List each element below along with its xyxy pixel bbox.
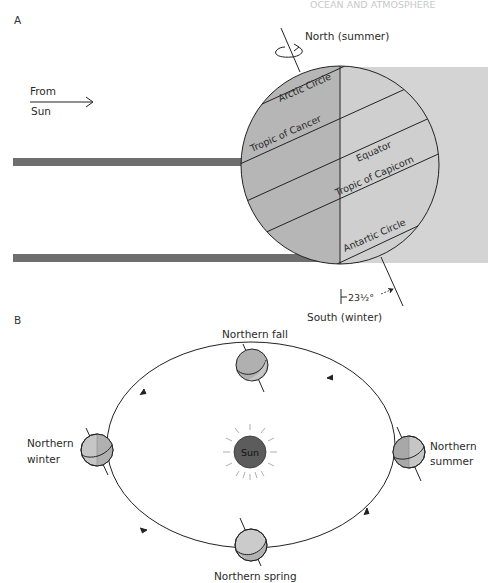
northern-summer-label-line1: Northern [430,440,477,452]
axis-south [381,257,403,306]
panel-a-label: A [14,14,22,26]
northern-winter-label-line2: winter [27,453,61,465]
panel-b-label: B [14,314,21,326]
earth-fall [236,344,268,392]
northern-winter-label-line1: Northern [27,437,74,449]
axis-north [281,28,300,72]
north-summer-label: North (summer) [305,30,389,42]
sunray-bar-bottom [13,254,343,262]
running-head: OCEAN AND ATMOSPHERE [310,0,435,10]
orbit-arrow-icon [140,528,147,533]
northern-summer-label-line2: summer [430,455,474,467]
northern-spring-label: Northern spring [214,570,297,582]
from-sun-label-line2: Sun [31,105,51,117]
tilt-angle-label: 23½° [348,292,374,303]
sun-label: Sun [241,447,259,458]
seasons-diagram: OCEAN AND ATMOSPHERE A From Sun Arctic C… [0,0,498,583]
from-sun-label-line1: From [30,85,56,97]
earth-winter [81,428,113,475]
earth-spring [235,518,267,566]
sunray-bar-top [13,158,245,166]
orbit-arrow-icon [327,375,333,380]
rotation-arrow-icon [276,47,303,57]
south-winter-label: South (winter) [307,311,382,323]
earth-summer [393,427,425,481]
orbit-arrow-icon [140,389,146,395]
orbit-arrow-icon [364,508,369,515]
northern-fall-label: Northern fall [222,328,288,340]
